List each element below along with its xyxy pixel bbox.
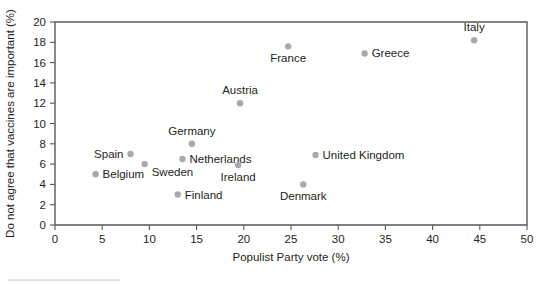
y-tick-label-8: 8 bbox=[40, 138, 46, 150]
chart-canvas: 0510152025303540455002468101214161820Pop… bbox=[0, 0, 548, 285]
data-point-belgium[interactable] bbox=[92, 171, 98, 177]
data-point-sweden[interactable] bbox=[141, 161, 147, 167]
x-axis-title: Populist Party vote (%) bbox=[233, 251, 350, 263]
data-label-finland: Finland bbox=[185, 189, 223, 201]
x-tick-label-20: 20 bbox=[237, 233, 250, 245]
data-point-france[interactable] bbox=[285, 43, 291, 49]
data-point-spain[interactable] bbox=[127, 151, 133, 157]
data-point-greece[interactable] bbox=[361, 50, 367, 56]
x-tick-label-50: 50 bbox=[521, 233, 534, 245]
y-tick-label-0: 0 bbox=[40, 219, 46, 231]
data-label-greece: Greece bbox=[372, 47, 410, 59]
data-point-germany[interactable] bbox=[189, 141, 195, 147]
y-tick-label-2: 2 bbox=[40, 199, 46, 211]
data-label-united-kingdom: United Kingdom bbox=[323, 149, 405, 161]
scatter-chart-figure: 0510152025303540455002468101214161820Pop… bbox=[0, 0, 548, 285]
data-point-italy[interactable] bbox=[471, 37, 477, 43]
data-label-belgium: Belgium bbox=[103, 168, 145, 180]
y-tick-label-6: 6 bbox=[40, 158, 46, 170]
data-label-italy: Italy bbox=[464, 21, 485, 33]
data-label-sweden: Sweden bbox=[152, 166, 194, 178]
x-tick-label-30: 30 bbox=[332, 233, 345, 245]
x-tick-label-35: 35 bbox=[379, 233, 392, 245]
data-label-denmark: Denmark bbox=[280, 190, 327, 202]
y-tick-label-20: 20 bbox=[33, 16, 46, 28]
data-point-austria[interactable] bbox=[237, 100, 243, 106]
data-label-france: France bbox=[270, 52, 306, 64]
y-tick-label-16: 16 bbox=[33, 57, 46, 69]
data-label-spain: Spain bbox=[94, 148, 123, 160]
data-point-ireland[interactable] bbox=[235, 162, 241, 168]
y-tick-label-14: 14 bbox=[33, 77, 46, 89]
data-label-netherlands: Netherlands bbox=[189, 153, 251, 165]
data-label-austria: Austria bbox=[222, 84, 258, 96]
data-label-ireland: Ireland bbox=[221, 171, 256, 183]
y-axis-title: Do not agree that vaccines are important… bbox=[4, 9, 16, 238]
x-tick-label-45: 45 bbox=[473, 233, 486, 245]
data-point-united-kingdom[interactable] bbox=[312, 152, 318, 158]
data-point-finland[interactable] bbox=[175, 191, 181, 197]
x-tick-label-10: 10 bbox=[143, 233, 156, 245]
y-tick-label-12: 12 bbox=[33, 97, 46, 109]
x-tick-label-5: 5 bbox=[99, 233, 105, 245]
y-tick-label-4: 4 bbox=[40, 178, 47, 190]
x-tick-label-25: 25 bbox=[285, 233, 298, 245]
y-tick-label-18: 18 bbox=[33, 36, 46, 48]
x-tick-label-40: 40 bbox=[426, 233, 439, 245]
data-point-netherlands[interactable] bbox=[179, 156, 185, 162]
data-label-germany: Germany bbox=[168, 125, 216, 137]
x-tick-label-0: 0 bbox=[52, 233, 58, 245]
y-tick-label-10: 10 bbox=[33, 118, 46, 130]
data-point-denmark[interactable] bbox=[300, 181, 306, 187]
x-tick-label-15: 15 bbox=[190, 233, 203, 245]
